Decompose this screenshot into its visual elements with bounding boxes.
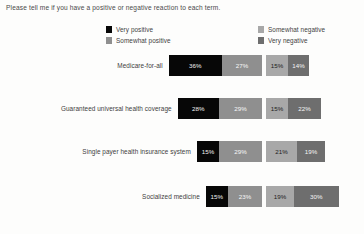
segment-very-positive: 15% [206, 186, 228, 207]
segment-somewhat-negative: 19% [266, 186, 294, 207]
segment-somewhat-positive: 27% [222, 55, 262, 76]
segment-very-negative: 14% [288, 55, 309, 76]
segment-very-positive: 15% [197, 141, 219, 162]
segment-somewhat-positive: 29% [219, 98, 262, 119]
chart-row: Medicare-for-all27%36%15%14% [0, 52, 364, 78]
legend-column-negative: Somewhat negative Very negative [258, 24, 325, 46]
legend-item-somewhat-negative: Somewhat negative [258, 24, 325, 35]
chart-row: Single payer health insurance system29%1… [0, 138, 364, 164]
question-text: Please tell me if you have a positive or… [6, 3, 356, 12]
legend-swatch-very-positive-icon [106, 26, 112, 33]
segment-somewhat-negative: 21% [266, 141, 297, 162]
segment-very-negative: 19% [297, 141, 325, 162]
row-bars: 23%15%19%30% [0, 183, 364, 209]
legend-swatch-somewhat-positive-icon [106, 37, 112, 44]
segment-somewhat-negative: 15% [266, 55, 288, 76]
segment-somewhat-negative: 15% [266, 98, 288, 119]
row-bars: 29%15%21%19% [0, 138, 364, 164]
legend-label-very-positive: Very positive [116, 26, 153, 34]
chart-page: Please tell me if you have a positive or… [0, 0, 364, 234]
row-bars: 27%36%15%14% [0, 52, 364, 78]
legend-item-somewhat-positive: Somewhat positive [106, 35, 171, 46]
legend-label-very-negative: Very negative [268, 37, 308, 45]
segment-somewhat-positive: 23% [228, 186, 262, 207]
legend-item-very-negative: Very negative [258, 35, 325, 46]
legend-item-very-positive: Very positive [106, 24, 171, 35]
segment-very-negative: 30% [294, 186, 338, 207]
segment-very-negative: 22% [288, 98, 321, 119]
segment-very-positive: 36% [169, 55, 222, 76]
segment-very-positive: 28% [178, 98, 219, 119]
legend-column-positive: Very positive Somewhat positive [106, 24, 171, 46]
chart-row: Guaranteed universal health coverage29%2… [0, 95, 364, 121]
legend: Very positive Somewhat positive Somewhat… [106, 24, 358, 46]
chart-row: Socialized medicine23%15%19%30% [0, 183, 364, 209]
legend-label-somewhat-negative: Somewhat negative [268, 26, 325, 34]
segment-somewhat-positive: 29% [219, 141, 262, 162]
diverging-stacked-bar-chart: Medicare-for-all27%36%15%14%Guaranteed u… [0, 52, 364, 234]
row-bars: 29%28%15%22% [0, 95, 364, 121]
legend-label-somewhat-positive: Somewhat positive [116, 37, 171, 45]
legend-swatch-somewhat-negative-icon [258, 26, 264, 33]
legend-swatch-very-negative-icon [258, 37, 264, 44]
